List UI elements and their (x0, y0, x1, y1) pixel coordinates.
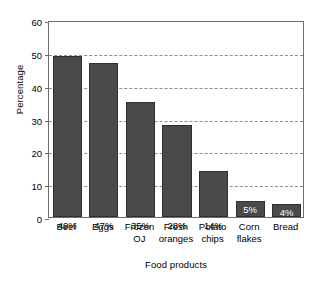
y-axis-tick-label: 30 (31, 115, 42, 126)
x-axis-category-label: Freshoranges (158, 221, 195, 244)
bar: 5% (236, 201, 265, 217)
bar: 49% (53, 56, 82, 217)
y-axis-tick-label: 60 (31, 17, 42, 28)
category-label-line: chips (194, 233, 231, 245)
bar: 4% (272, 204, 301, 217)
y-axis-tick-label: 40 (31, 82, 42, 93)
x-axis-category-label: Bread (267, 221, 304, 233)
x-axis-category-label: Potatochips (194, 221, 231, 244)
bar-value-label: 4% (273, 207, 300, 218)
x-axis-title: Food products (48, 259, 304, 270)
bar-value-label: 5% (237, 204, 264, 215)
x-axis-category-label: Beef (48, 221, 85, 233)
tick-mark (45, 219, 49, 220)
category-label-line: oranges (158, 233, 195, 245)
x-axis-category-label: Eggs (85, 221, 122, 233)
bar: 47% (89, 63, 118, 217)
x-axis-category-label: Cornflakes (231, 221, 268, 244)
category-label-line: Eggs (85, 221, 122, 233)
x-axis-category-label: FrozenOJ (121, 221, 158, 244)
category-label-line: Frozen (121, 221, 158, 233)
x-axis-category-labels: BeefEggsFrozenOJFreshorangesPotatochipsC… (48, 221, 304, 257)
bar: 28% (162, 125, 191, 217)
bar-chart: Percentage 0102030405060 49%47%35%28%14%… (0, 0, 324, 286)
category-label-line: Beef (48, 221, 85, 233)
bars-group: 49%47%35%28%14%5%4% (49, 22, 303, 217)
y-axis-tick-label: 0 (37, 214, 42, 225)
category-label-line: Bread (267, 221, 304, 233)
y-axis-tick-label: 10 (31, 181, 42, 192)
category-label-line: Fresh (158, 221, 195, 233)
plot-area: 0102030405060 49%47%35%28%14%5%4% (48, 21, 304, 218)
y-axis-title: Percentage (14, 45, 25, 135)
y-axis-tick-label: 20 (31, 148, 42, 159)
category-label-line: OJ (121, 233, 158, 245)
bar: 35% (126, 102, 155, 217)
category-label-line: flakes (231, 233, 268, 245)
category-label-line: Potato (194, 221, 231, 233)
y-axis-tick-label: 50 (31, 49, 42, 60)
category-label-line: Corn (231, 221, 268, 233)
bar: 14% (199, 171, 228, 217)
